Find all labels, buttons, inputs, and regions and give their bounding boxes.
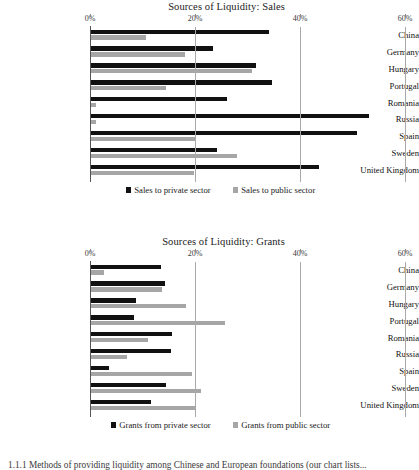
legend-swatch-icon xyxy=(233,422,239,428)
bar-row: Sweden xyxy=(0,380,419,397)
legend-sales: Sales to private sectorSales to public s… xyxy=(0,179,419,201)
legend-item: Sales to public sector xyxy=(233,185,316,195)
chart-sources-of-liquidity-grants: Sources of Liquidity: Grants 0%20%40%60%… xyxy=(0,235,419,470)
bar-row: Portugal xyxy=(0,313,419,330)
bar-private xyxy=(90,97,227,101)
bar-row: Spain xyxy=(0,128,419,145)
legend-swatch-icon xyxy=(233,187,239,193)
bar-group xyxy=(90,145,419,162)
bar-row: Sweden xyxy=(0,145,419,162)
x-tick-mark xyxy=(90,14,91,17)
bar-group xyxy=(90,111,419,128)
legend-item: Grants from private sector xyxy=(111,420,211,430)
bar-row: Portugal xyxy=(0,78,419,95)
bar-private xyxy=(90,148,217,152)
bar-private xyxy=(90,383,166,387)
bar-rows-sales: ChinaGermanyHungaryPortugalRomaniaRussia… xyxy=(0,27,419,179)
bar-public xyxy=(90,406,195,410)
bar-private xyxy=(90,349,171,353)
figure-page: Sources of Liquidity: Sales 0%20%40%60% … xyxy=(0,0,419,470)
bar-private xyxy=(90,281,165,285)
bar-private xyxy=(90,366,109,370)
plot-area-sales: ChinaGermanyHungaryPortugalRomaniaRussia… xyxy=(0,27,419,179)
x-tick-mark xyxy=(405,14,406,17)
gridline xyxy=(195,262,196,417)
bar-public xyxy=(90,338,148,342)
bar-group xyxy=(90,330,419,347)
plot-area-grants: ChinaGermanyHungaryPortugalRomaniaRussia… xyxy=(0,262,419,414)
chart-title-sales: Sources of Liquidity: Sales xyxy=(0,0,419,14)
bar-private xyxy=(90,30,269,34)
legend-label: Grants from private sector xyxy=(119,420,210,430)
x-tick-mark xyxy=(90,249,91,252)
bar-public xyxy=(90,137,196,141)
bar-row: United Kingdom xyxy=(0,162,419,179)
bar-group xyxy=(90,380,419,397)
bar-group xyxy=(90,78,419,95)
bar-row: Russia xyxy=(0,111,419,128)
y-axis-line xyxy=(90,261,91,417)
legend-swatch-icon xyxy=(126,187,132,193)
y-axis-line xyxy=(90,26,91,182)
bar-row: China xyxy=(0,27,419,44)
bar-row: United Kingdom xyxy=(0,397,419,414)
gridline xyxy=(300,262,301,417)
x-axis-tick-labels-sales: 0%20%40%60% xyxy=(0,14,419,27)
bar-group xyxy=(90,44,419,61)
bar-public xyxy=(90,389,201,393)
bar-public xyxy=(90,304,186,308)
bar-group xyxy=(90,296,419,313)
chart-sources-of-liquidity-sales: Sources of Liquidity: Sales 0%20%40%60% … xyxy=(0,0,419,232)
bar-group xyxy=(90,313,419,330)
gridline xyxy=(300,27,301,182)
legend-label: Sales to private sector xyxy=(134,185,210,195)
bar-public xyxy=(90,321,225,325)
x-tick-mark xyxy=(195,14,196,17)
bar-private xyxy=(90,298,136,302)
bar-group xyxy=(90,262,419,279)
chart-title-grants: Sources of Liquidity: Grants xyxy=(0,235,419,249)
bar-public xyxy=(90,355,127,359)
bar-row: Hungary xyxy=(0,296,419,313)
legend-grants: Grants from private sectorGrants from pu… xyxy=(0,414,419,436)
bar-private xyxy=(90,165,319,169)
bar-group xyxy=(90,27,419,44)
bar-private xyxy=(90,332,172,336)
bar-public xyxy=(90,86,166,90)
bar-public xyxy=(90,372,192,376)
bar-group xyxy=(90,162,419,179)
bar-public xyxy=(90,270,104,274)
bar-private xyxy=(90,114,369,118)
bar-row: Hungary xyxy=(0,61,419,78)
legend-label: Sales to public sector xyxy=(241,185,315,195)
x-tick-mark xyxy=(300,249,301,252)
bar-group xyxy=(90,279,419,296)
legend-item: Grants from public sector xyxy=(233,420,331,430)
x-axis-tick-labels-grants: 0%20%40%60% xyxy=(0,249,419,262)
bar-group xyxy=(90,397,419,414)
bar-group xyxy=(90,61,419,78)
bar-row: Romania xyxy=(0,95,419,112)
bar-private xyxy=(90,80,272,84)
bar-public xyxy=(90,69,252,73)
bar-row: Russia xyxy=(0,346,419,363)
figure-caption-fragment: 1.1.1 Methods of providing liquidity amo… xyxy=(0,459,419,470)
bar-private xyxy=(90,400,151,404)
x-tick-mark xyxy=(405,249,406,252)
bar-row: Spain xyxy=(0,363,419,380)
gridline xyxy=(405,262,406,417)
bar-private xyxy=(90,265,161,269)
bar-public xyxy=(90,35,146,39)
bar-public xyxy=(90,52,185,56)
bar-public xyxy=(90,171,194,175)
bar-group xyxy=(90,95,419,112)
gridline xyxy=(195,27,196,182)
bar-private xyxy=(90,131,357,135)
legend-item: Sales to private sector xyxy=(126,185,211,195)
x-tick-mark xyxy=(195,249,196,252)
bar-row: China xyxy=(0,262,419,279)
bar-rows-grants: ChinaGermanyHungaryPortugalRomaniaRussia… xyxy=(0,262,419,414)
legend-swatch-icon xyxy=(111,422,117,428)
x-tick-mark xyxy=(300,14,301,17)
bar-row: Romania xyxy=(0,330,419,347)
